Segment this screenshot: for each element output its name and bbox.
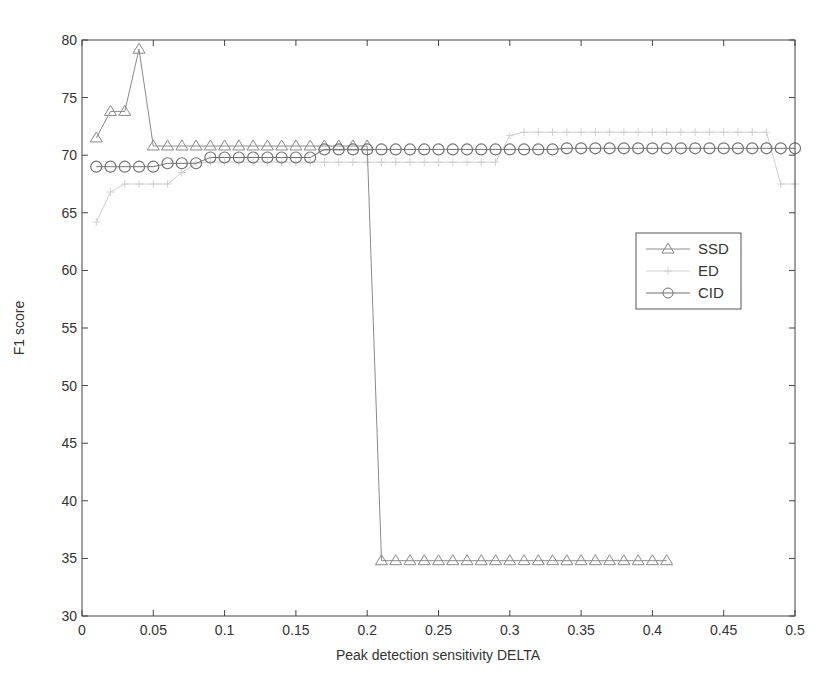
x-tick-label: 0.2 (357, 622, 377, 638)
data-point (335, 158, 343, 166)
data-point (447, 555, 459, 565)
data-point (121, 180, 129, 188)
y-tick-label: 55 (61, 320, 77, 336)
data-point (620, 128, 628, 136)
line-chart: 00.050.10.150.20.250.30.350.40.450.53035… (0, 0, 833, 686)
data-point (547, 555, 559, 565)
data-point (261, 140, 273, 150)
data-point (490, 555, 502, 565)
x-tick-label: 0 (78, 622, 86, 638)
data-point (276, 140, 288, 150)
data-point (720, 128, 728, 136)
data-point (691, 128, 699, 136)
axes: 00.050.10.150.20.250.30.350.40.450.53035… (61, 32, 805, 638)
data-point (618, 555, 630, 565)
x-tick-label: 0.1 (215, 622, 235, 638)
data-point (677, 128, 685, 136)
y-tick-label: 60 (61, 262, 77, 278)
y-tick-label: 70 (61, 147, 77, 163)
y-tick-label: 80 (61, 32, 77, 48)
series-cid (91, 143, 801, 172)
y-tick-label: 45 (61, 435, 77, 451)
y-tick-label: 75 (61, 90, 77, 106)
data-point (92, 218, 100, 226)
data-point (162, 140, 174, 150)
data-point (646, 555, 658, 565)
legend-label-cid: CID (698, 284, 724, 301)
x-tick-label: 0.4 (643, 622, 663, 638)
data-point (406, 158, 414, 166)
data-point (418, 555, 430, 565)
data-point (606, 128, 614, 136)
data-point (247, 140, 259, 150)
y-tick-label: 65 (61, 205, 77, 221)
x-tick-label: 0.3 (500, 622, 520, 638)
data-point (107, 188, 115, 196)
data-point (333, 140, 345, 150)
x-tick-label: 0.45 (710, 622, 737, 638)
data-point (734, 128, 742, 136)
data-point (534, 128, 542, 136)
x-tick-label: 0.15 (282, 622, 309, 638)
data-point (748, 128, 756, 136)
y-tick-label: 40 (61, 493, 77, 509)
data-point (176, 140, 188, 150)
data-point (762, 128, 770, 136)
data-point (420, 158, 428, 166)
data-point (577, 128, 585, 136)
data-point (449, 158, 457, 166)
data-point (549, 128, 557, 136)
x-tick-label: 0.25 (425, 622, 452, 638)
data-point (290, 140, 302, 150)
data-point (589, 555, 601, 565)
data-point (591, 128, 599, 136)
data-point (520, 128, 528, 136)
data-point (219, 140, 231, 150)
data-point (318, 140, 330, 150)
data-point (477, 158, 485, 166)
data-point (377, 158, 385, 166)
data-point (492, 158, 500, 166)
legend-label-ed: ED (698, 262, 719, 279)
x-tick-label: 0.5 (785, 622, 805, 638)
data-point (632, 555, 644, 565)
data-point (347, 140, 359, 150)
y-tick-label: 30 (61, 608, 77, 624)
data-point (149, 180, 157, 188)
data-point (135, 180, 143, 188)
y-tick-label: 50 (61, 378, 77, 394)
data-point (532, 555, 544, 565)
data-point (190, 140, 202, 150)
data-point (320, 158, 328, 166)
y-tick-label: 35 (61, 550, 77, 566)
x-tick-label: 0.05 (140, 622, 167, 638)
data-point (105, 105, 117, 115)
data-point (506, 132, 514, 140)
data-point (435, 158, 443, 166)
data-point (663, 128, 671, 136)
data-point (518, 555, 530, 565)
data-point (634, 128, 642, 136)
data-point (648, 128, 656, 136)
data-point (504, 555, 516, 565)
data-point (404, 555, 416, 565)
axes-frame (82, 40, 795, 616)
data-point (233, 140, 245, 150)
data-point (705, 128, 713, 136)
data-point (204, 140, 216, 150)
y-axis-label: F1 score (11, 301, 27, 356)
data-point (575, 555, 587, 565)
data-point (349, 158, 357, 166)
data-point (392, 158, 400, 166)
legend-label-ssd: SSD (698, 240, 729, 257)
data-point (461, 555, 473, 565)
data-point (304, 140, 316, 150)
data-point (475, 555, 487, 565)
data-point (390, 555, 402, 565)
x-axis-label: Peak detection sensitivity DELTA (336, 647, 541, 663)
data-point (561, 555, 573, 565)
data-point (463, 158, 471, 166)
series-ssd (90, 43, 672, 564)
x-tick-label: 0.35 (567, 622, 594, 638)
data-point (661, 555, 673, 565)
